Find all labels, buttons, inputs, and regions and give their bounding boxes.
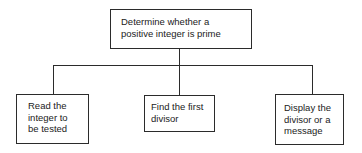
root-box-line-1: Determine whether a	[121, 16, 241, 28]
child-box-display-result: Display the divisor or a message	[275, 94, 344, 145]
child-3-line-3: message	[284, 125, 335, 137]
child-1-line-1: Read the	[28, 100, 77, 112]
child-1-line-3: be tested	[28, 123, 77, 135]
child-box-read-integer: Read the integer to be tested	[16, 94, 89, 144]
child-2-line-2: divisor	[151, 113, 208, 125]
middle-child-connector	[179, 65, 180, 95]
child-3-line-2: divisor or a	[284, 114, 335, 126]
child-1-line-2: integer to	[28, 112, 77, 124]
child-2-line-1: Find the first	[151, 101, 208, 113]
root-box-line-2: positive integer is prime	[121, 28, 241, 40]
child-box-find-divisor: Find the first divisor	[144, 95, 215, 132]
root-box-determine-prime: Determine whether a positive integer is …	[110, 9, 252, 49]
root-stem-connector	[179, 48, 180, 65]
child-3-line-1: Display the	[284, 102, 335, 114]
right-child-connector	[312, 65, 313, 94]
horizontal-bus-connector	[53, 65, 313, 66]
left-child-connector	[53, 65, 54, 94]
